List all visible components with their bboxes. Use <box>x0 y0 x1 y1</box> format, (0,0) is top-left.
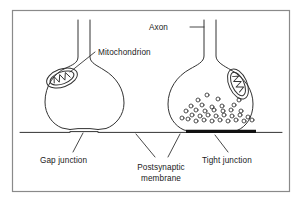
label-gap-junction: Gap junction <box>40 156 88 165</box>
label-mitochondrion: Mitochondrion <box>98 48 151 57</box>
label-postsynaptic-membrane-line2: membrane <box>141 174 181 183</box>
synapse-diagram-figure: Mitochondrion Axon Gap junction Postsyna… <box>0 0 302 202</box>
label-tight-junction: Tight junction <box>202 156 252 165</box>
label-axon: Axon <box>149 23 168 32</box>
label-postsynaptic-membrane-line1: Postsynaptic <box>137 163 185 172</box>
diagram-canvas: Mitochondrion Axon Gap junction Postsyna… <box>0 0 302 202</box>
